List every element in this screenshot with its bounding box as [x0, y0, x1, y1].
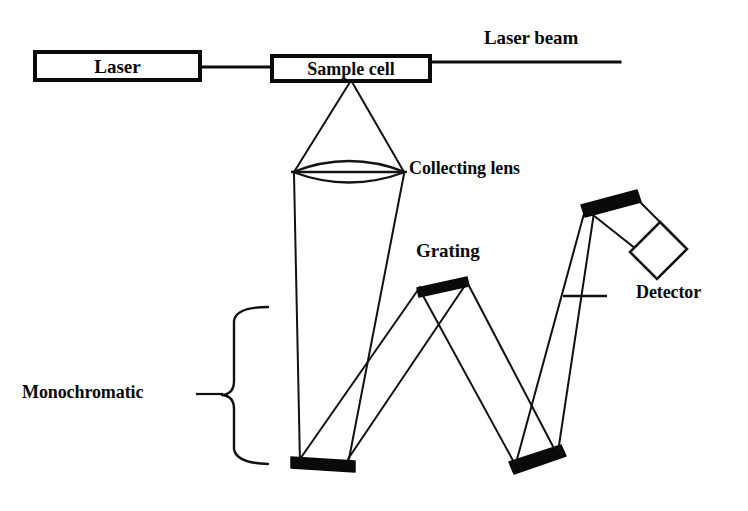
laser-label: Laser [35, 52, 200, 80]
lens-to-mirror-ray-left [294, 174, 300, 464]
mirror-left-to-grating-ray-a [300, 287, 420, 459]
grating-label: Grating [416, 241, 480, 260]
sample-cell-label: Sample cell [272, 56, 430, 81]
scatter-ray-left [294, 82, 350, 172]
collecting-lens-label: Collecting lens [409, 159, 520, 177]
lens-to-mirror-ray-right [348, 174, 404, 464]
grating-bar [417, 277, 469, 297]
monochromatic-label: Monochromatic [22, 383, 143, 401]
laser-beam-label: Laser beam [484, 28, 578, 47]
collecting-lens-lower-arc [293, 172, 405, 183]
scatter-ray-right [352, 82, 404, 172]
collecting-lens-upper-arc [293, 161, 405, 172]
monochromatic-brace [222, 307, 268, 464]
detector-body [630, 222, 687, 279]
grating-to-mirror-right-ray-b [467, 282, 558, 456]
detector-label: Detector [636, 283, 701, 301]
raman-spectrometer-diagram: Laser Sample cell Laser beam Collecting … [0, 0, 748, 511]
grating-to-mirror-right-ray-a [421, 292, 516, 466]
